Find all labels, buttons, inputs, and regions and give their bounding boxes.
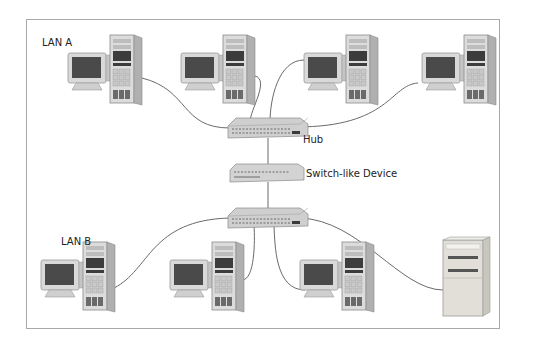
switch-device [230,164,304,182]
lan-a-workstation-3 [304,35,378,105]
hub-device [228,118,308,138]
lan-a-workstation-1 [68,35,142,105]
lan-b-server [443,237,490,316]
lan-b-cables [114,218,443,290]
lan-b-label: LAN B [61,236,91,247]
lan-b-workstation-3 [300,242,374,312]
lan-a-workstation-4 [422,35,496,105]
hub-label: Hub [303,134,323,145]
lan-b-workstation-2 [170,242,244,312]
network-diagram [0,0,533,350]
lan-b-hub-device [228,208,308,228]
lan-a-label: LAN A [42,37,72,48]
lan-b-workstation-1 [41,242,115,312]
switch-label: Switch-like Device [306,168,397,179]
lan-a-workstation-2 [181,35,255,105]
